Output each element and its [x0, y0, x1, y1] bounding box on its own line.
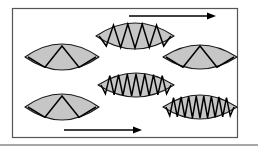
figure-container	[0, 0, 258, 150]
figure-diagram	[0, 0, 258, 150]
